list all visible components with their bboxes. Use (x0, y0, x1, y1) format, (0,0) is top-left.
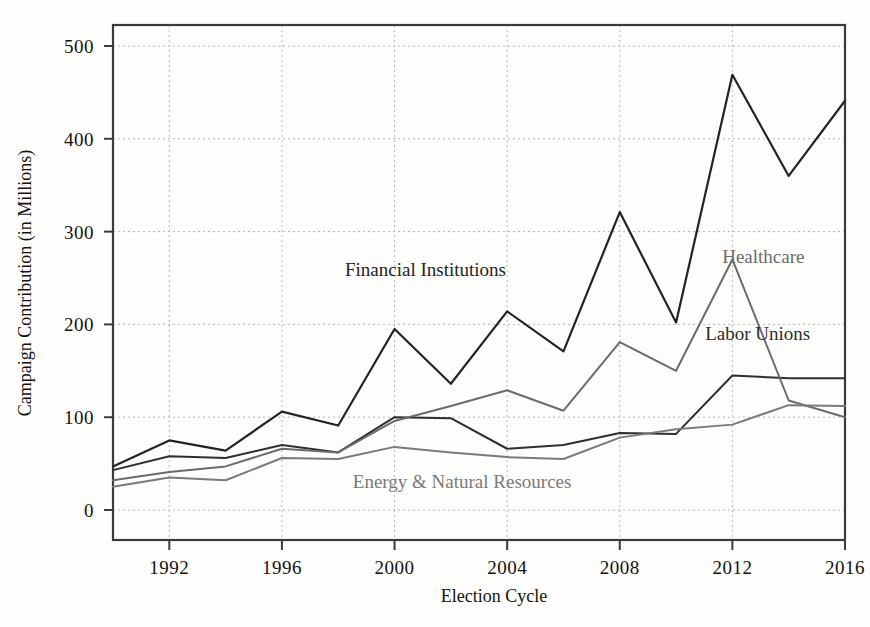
x-tick-label: 2016 (825, 557, 865, 578)
y-tick-label: 300 (64, 222, 94, 243)
line-chart: 0100200300400500 19921996200020042008201… (0, 0, 870, 627)
x-axis-title: Election Cycle (441, 586, 547, 606)
x-axis-ticks: 1992199620002004200820122016 (149, 540, 865, 578)
data-series (113, 75, 845, 487)
series-label-healthcare: Healthcare (722, 246, 804, 267)
y-tick-label: 500 (64, 36, 94, 57)
y-tick-label: 0 (84, 500, 94, 521)
series-label-financial-institutions: Financial Institutions (345, 259, 506, 280)
plot-frame (113, 25, 845, 540)
y-axis-title: Campaign Contribution (in Millions) (15, 150, 36, 417)
series-label-energy-natural-resources: Energy & Natural Resources (353, 471, 572, 492)
gridlines (113, 25, 845, 540)
series-line-healthcare (113, 259, 845, 480)
y-tick-label: 200 (64, 314, 94, 335)
x-tick-label: 2000 (375, 557, 415, 578)
plot-border (113, 25, 845, 540)
x-tick-label: 2004 (487, 557, 527, 578)
y-axis-ticks: 0100200300400500 (64, 36, 113, 521)
x-tick-label: 2012 (712, 557, 752, 578)
x-tick-label: 1996 (262, 557, 302, 578)
x-tick-label: 1992 (149, 557, 189, 578)
series-annotations: Financial InstitutionsLabor UnionsHealth… (345, 246, 810, 492)
series-label-labor-unions: Labor Unions (705, 323, 810, 344)
y-tick-label: 400 (64, 129, 94, 150)
y-tick-label: 100 (64, 407, 94, 428)
x-tick-label: 2008 (600, 557, 640, 578)
chart-container: 0100200300400500 19921996200020042008201… (0, 0, 870, 627)
